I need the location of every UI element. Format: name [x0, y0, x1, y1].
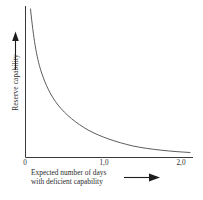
data-curve: [31, 9, 191, 153]
x-axis-title-line-1: Expected number of days: [31, 168, 106, 177]
x-tick-label-1: 1,0: [95, 159, 113, 167]
x-axis-direction-arrow: [124, 174, 160, 182]
y-axis-title: Reserve capability: [11, 35, 20, 131]
x-axis-title-line-2: with deficient capability: [31, 177, 106, 186]
chart-figure: Reserve capability 0 1,0 2,0 Expected nu…: [0, 0, 203, 200]
x-tick-label-2: 2,0: [172, 159, 190, 167]
x-tick-label-0: 0: [18, 159, 32, 167]
x-axis-title: Expected number of days with deficient c…: [31, 168, 106, 186]
